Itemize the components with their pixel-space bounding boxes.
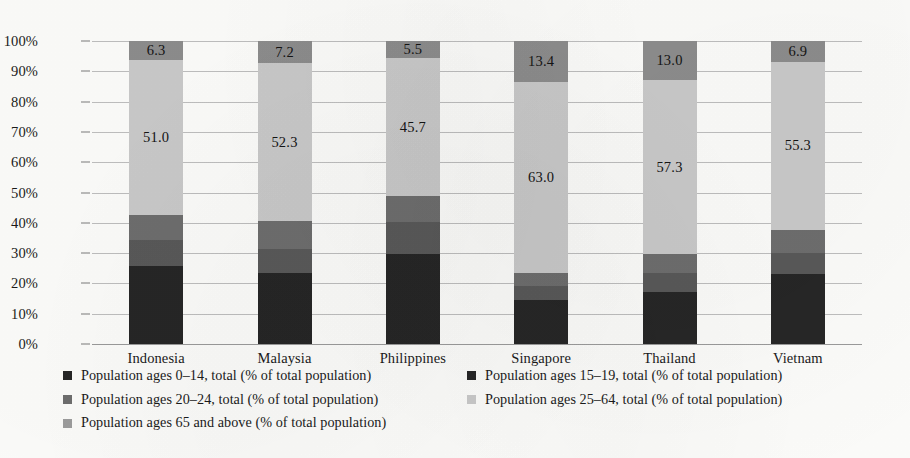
y-axis-tick-mark <box>81 41 90 42</box>
x-axis-category-label: Philippines <box>349 350 477 367</box>
y-axis-tick-mark <box>81 192 90 193</box>
x-axis-category-label: Malaysia <box>220 350 348 367</box>
plot-area: 0%10%20%30%40%50%60%70%80%90%100% 51.06.… <box>92 41 862 344</box>
bar-group: 52.37.2 <box>258 41 312 344</box>
bar-segment[interactable] <box>386 222 440 254</box>
legend-item[interactable]: Population ages 0–14, total (% of total … <box>63 368 467 384</box>
bar-group: 57.313.0 <box>643 41 697 344</box>
x-axis-category-label: Indonesia <box>92 350 220 367</box>
gridline-0 <box>92 344 862 345</box>
legend-item[interactable]: Population ages 15–19, total (% of total… <box>467 368 871 384</box>
stacked-bar[interactable]: 45.75.5 <box>386 41 440 344</box>
bar-segment[interactable] <box>643 273 697 292</box>
bar-segment[interactable] <box>129 215 183 241</box>
x-axis-category-label: Thailand <box>605 350 733 367</box>
y-axis-tick-mark <box>81 71 90 72</box>
bar-segment[interactable]: 7.2 <box>258 41 312 63</box>
y-axis-tick-label: 0% <box>0 336 38 353</box>
bar-segment[interactable]: 13.4 <box>514 41 568 82</box>
bar-segment[interactable]: 55.3 <box>771 62 825 230</box>
bar-group: 51.06.3 <box>129 41 183 344</box>
bar-value-label: 6.3 <box>147 43 166 58</box>
y-axis-tick-label: 100% <box>0 33 38 50</box>
chart-legend: Population ages 0–14, total (% of total … <box>63 368 863 431</box>
bar-segment[interactable]: 57.3 <box>643 80 697 254</box>
bar-segment[interactable] <box>258 221 312 248</box>
legend-swatch-icon <box>63 419 72 428</box>
legend-item[interactable]: Population ages 20–24, total (% of total… <box>63 392 467 408</box>
bar-segment[interactable] <box>771 230 825 254</box>
bar-segment[interactable]: 6.3 <box>129 41 183 60</box>
bar-segment[interactable]: 45.7 <box>386 58 440 196</box>
y-axis-tick-label: 90% <box>0 63 38 80</box>
y-axis-tick-mark <box>81 313 90 314</box>
legend-swatch-icon <box>467 395 476 404</box>
legend-item[interactable]: Population ages 25–64, total (% of total… <box>467 392 871 408</box>
bar-segment[interactable]: 13.0 <box>643 41 697 80</box>
legend-swatch-icon <box>63 371 72 380</box>
bar-segment[interactable] <box>258 249 312 274</box>
bar-segment[interactable]: 5.5 <box>386 41 440 58</box>
stacked-bar-chart: 0%10%20%30%40%50%60%70%80%90%100% 51.06.… <box>0 0 910 458</box>
bar-value-label: 63.0 <box>528 170 554 185</box>
bar-segment[interactable] <box>643 254 697 273</box>
bar-segment[interactable]: 63.0 <box>514 82 568 273</box>
bar-group: 55.36.9 <box>771 41 825 344</box>
bar-segment[interactable] <box>129 240 183 265</box>
bar-value-label: 5.5 <box>403 42 422 57</box>
stacked-bar[interactable]: 51.06.3 <box>129 41 183 344</box>
legend-swatch-icon <box>467 371 476 380</box>
bar-group: 45.75.5 <box>386 41 440 344</box>
bar-segment[interactable]: 52.3 <box>258 63 312 221</box>
y-axis-tick-label: 70% <box>0 123 38 140</box>
bar-value-label: 6.9 <box>788 44 807 59</box>
bar-segment[interactable] <box>771 253 825 273</box>
y-axis-tick-label: 60% <box>0 154 38 171</box>
bar-segment[interactable]: 51.0 <box>129 60 183 215</box>
y-axis-tick-mark <box>81 253 90 254</box>
legend-item[interactable]: Population ages 65 and above (% of total… <box>63 415 467 431</box>
legend-swatch-icon <box>63 395 72 404</box>
bar-value-label: 45.7 <box>400 120 426 135</box>
bar-segment[interactable] <box>643 292 697 344</box>
bar-segment[interactable]: 6.9 <box>771 41 825 62</box>
bar-value-label: 13.0 <box>656 53 682 68</box>
bar-value-label: 52.3 <box>271 135 297 150</box>
bar-segment[interactable] <box>129 266 183 344</box>
y-axis-tick-mark <box>81 162 90 163</box>
y-axis-tick-mark <box>81 222 90 223</box>
bar-value-label: 55.3 <box>785 138 811 153</box>
y-axis-tick-label: 40% <box>0 214 38 231</box>
y-axis-tick-label: 10% <box>0 305 38 322</box>
y-axis-tick-label: 30% <box>0 245 38 262</box>
bar-group: 63.013.4 <box>514 41 568 344</box>
y-axis-tick-label: 20% <box>0 275 38 292</box>
bar-segment[interactable] <box>386 196 440 222</box>
y-axis-tick-mark <box>81 344 90 345</box>
bar-series-container: 51.06.352.37.245.75.563.013.457.313.055.… <box>92 41 862 344</box>
legend-item-label: Population ages 0–14, total (% of total … <box>81 368 371 384</box>
y-axis-tick-label: 50% <box>0 184 38 201</box>
legend-item-label: Population ages 15–19, total (% of total… <box>485 368 782 384</box>
legend-item-label: Population ages 65 and above (% of total… <box>81 415 386 431</box>
y-axis-tick-mark <box>81 283 90 284</box>
stacked-bar[interactable]: 52.37.2 <box>258 41 312 344</box>
stacked-bar[interactable]: 63.013.4 <box>514 41 568 344</box>
x-axis-category-label: Singapore <box>477 350 605 367</box>
stacked-bar[interactable]: 55.36.9 <box>771 41 825 344</box>
bar-value-label: 57.3 <box>656 160 682 175</box>
bar-segment[interactable] <box>386 254 440 344</box>
bar-segment[interactable] <box>258 273 312 344</box>
bar-value-label: 7.2 <box>275 45 294 60</box>
bar-segment[interactable] <box>514 300 568 344</box>
y-axis-tick-mark <box>81 101 90 102</box>
y-axis-tick-label: 80% <box>0 93 38 110</box>
stacked-bar[interactable]: 57.313.0 <box>643 41 697 344</box>
bar-value-label: 51.0 <box>143 130 169 145</box>
bar-segment[interactable] <box>514 273 568 286</box>
legend-item-label: Population ages 25–64, total (% of total… <box>485 392 782 408</box>
y-axis-tick-mark <box>81 131 90 132</box>
bar-segment[interactable] <box>514 286 568 300</box>
bar-segment[interactable] <box>771 274 825 344</box>
legend-item-label: Population ages 20–24, total (% of total… <box>81 392 378 408</box>
